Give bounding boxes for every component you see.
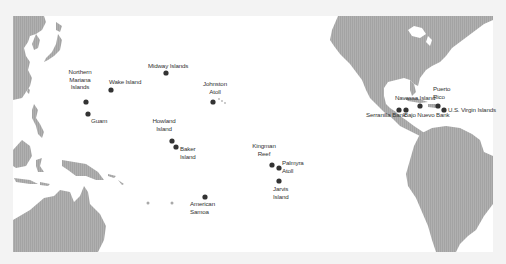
marker-label: PalmyraAtoll	[282, 159, 304, 174]
marker-label: JarvisIsland	[273, 185, 289, 200]
marker-label: PuertoRico	[433, 85, 451, 100]
landmasses	[13, 16, 493, 252]
marker-dot-icon[interactable]	[108, 87, 113, 92]
marker-label: Serranilla Bank	[366, 111, 407, 118]
land-new-guinea	[62, 160, 104, 180]
marker-dot-icon[interactable]	[276, 178, 281, 183]
marker-dot-icon[interactable]	[163, 70, 168, 75]
marker-us-virgin-islands[interactable]: U.S. Virgin Islands	[441, 106, 496, 113]
marker-dot-icon[interactable]	[202, 194, 207, 199]
land-borneo	[13, 140, 32, 168]
marker-johnston-atoll[interactable]: JohnstonAtoll	[203, 80, 228, 105]
marker-wake-island[interactable]: Wake Island	[108, 78, 141, 93]
marker-dot-icon[interactable]	[169, 138, 174, 143]
marker-american-samoa[interactable]: AmericanSamoa	[190, 194, 216, 214]
marker-baker-island[interactable]: BakerIsland	[173, 144, 196, 159]
land-hokkaido	[56, 22, 62, 32]
marker-northern-mariana-islands[interactable]: NorthernMarianaIslands	[69, 68, 93, 105]
marker-label: BakerIsland	[180, 145, 196, 160]
marker-palmyra-atoll[interactable]: PalmyraAtoll	[276, 159, 304, 174]
marker-guam[interactable]: Guam	[85, 111, 107, 124]
marker-label: Guam	[91, 117, 107, 124]
map-svg[interactable]: NorthernMarianaIslandsGuamWake IslandMid…	[0, 0, 506, 264]
marker-label: Midway Islands	[148, 62, 188, 69]
land-philippines	[32, 104, 44, 138]
land-tonga	[171, 202, 174, 205]
marker-label: HowlandIsland	[152, 117, 176, 132]
marker-dot-icon[interactable]	[173, 144, 178, 149]
marker-label: Navassa Island	[395, 94, 436, 101]
marker-label: U.S. Virgin Islands	[448, 106, 496, 113]
marker-dot-icon[interactable]	[269, 162, 274, 167]
marker-dot-icon[interactable]	[83, 99, 88, 104]
land-japan	[44, 34, 62, 62]
land-java	[14, 178, 38, 184]
land-korea	[32, 34, 40, 50]
marker-label: AmericanSamoa	[190, 200, 216, 215]
marker-dot-icon[interactable]	[417, 103, 422, 108]
land-east-asia	[13, 16, 46, 100]
marker-howland-island[interactable]: HowlandIsland	[152, 117, 176, 144]
marker-kingman-reef[interactable]: KingmanReef	[252, 142, 276, 168]
marker-midway-islands[interactable]: Midway Islands	[148, 62, 188, 76]
land-fiji	[147, 202, 150, 205]
land-south-america	[406, 126, 493, 252]
marker-label: Wake Island	[109, 78, 142, 85]
land-solomons	[108, 174, 124, 185]
hawaii-islands	[218, 98, 226, 104]
marker-jarvis-island[interactable]: JarvisIsland	[273, 178, 289, 199]
marker-dot-icon[interactable]	[210, 99, 215, 104]
marker-label: KingmanReef	[252, 142, 276, 157]
land-sulawesi	[36, 158, 44, 172]
marker-dot-icon[interactable]	[276, 165, 281, 170]
land-small-islands	[40, 182, 50, 186]
marker-dot-icon[interactable]	[85, 111, 90, 116]
land-australia	[13, 186, 106, 252]
marker-dot-icon[interactable]	[441, 107, 446, 112]
marker-label: JohnstonAtoll	[203, 80, 228, 95]
marker-label: NorthernMarianaIslands	[69, 68, 93, 90]
marker-dot-icon[interactable]	[435, 103, 440, 108]
